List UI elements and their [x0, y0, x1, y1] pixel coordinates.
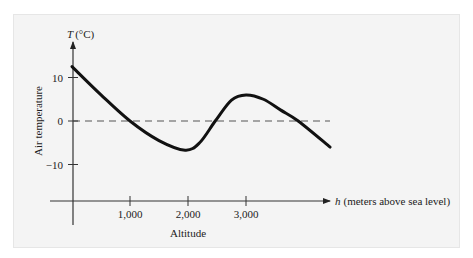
x-axis-title: Altitude: [170, 227, 206, 239]
x-tick-label: 1,000: [118, 208, 143, 220]
x-tick-label: 2,000: [176, 208, 201, 220]
y-axis-title: Air temperature: [32, 86, 44, 156]
y-axis-variable-label: T(°C): [67, 28, 95, 41]
x-tick-label: 3,000: [234, 208, 259, 220]
y-tick-label: 0: [58, 115, 64, 127]
temperature-altitude-chart: 100−10 1,0002,0003,000 T(°C) Air tempera…: [0, 0, 473, 258]
y-tick-label: 10: [52, 72, 64, 84]
temperature-curve: [72, 67, 330, 151]
x-axis-variable-label: h(meters above sea level): [335, 195, 450, 208]
y-tick-label: −10: [46, 159, 64, 171]
x-ticks: 1,0002,0003,000: [118, 196, 259, 220]
